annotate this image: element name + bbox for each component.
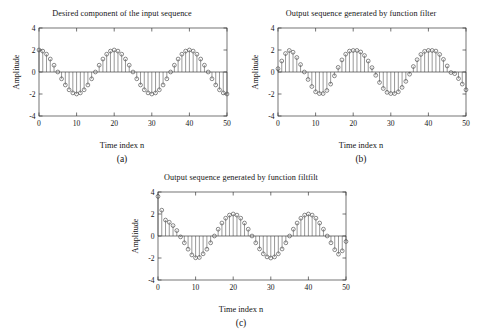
panel-c-caption: (c) — [127, 317, 355, 329]
y-axis-title: Amplitude — [12, 54, 21, 89]
y-tick-label: -4 — [268, 112, 275, 121]
x-tick-label: 0 — [37, 119, 41, 128]
x-tick-label: 10 — [312, 119, 320, 128]
y-tick-label: 0 — [32, 68, 36, 77]
y-tick-label: -4 — [148, 276, 155, 285]
panel-c-xlabel: Time index n — [127, 305, 355, 315]
x-tick-label: 10 — [73, 119, 81, 128]
y-axis-title: Amplitude — [131, 218, 140, 253]
figure-container: Desired component of the input sequence … — [0, 0, 483, 334]
y-tick-label: 4 — [32, 24, 36, 33]
panel-c: Output sequence generated by function fi… — [127, 172, 355, 322]
panel-b-plot: 01020304050420-2-4Amplitude — [247, 19, 475, 135]
panel-a-plot: 01020304050420-2-4Amplitude — [8, 19, 236, 135]
panel-b-xlabel: Time index n — [247, 141, 475, 151]
x-tick-label: 0 — [156, 283, 160, 292]
x-tick-label: 40 — [186, 119, 194, 128]
panel-a-xlabel: Time index n — [8, 141, 236, 151]
data-point-marker — [179, 235, 183, 239]
y-axis-title: Amplitude — [251, 54, 260, 89]
panel-b-caption: (b) — [247, 153, 475, 165]
x-tick-label: 10 — [192, 283, 200, 292]
x-tick-label: 0 — [276, 119, 280, 128]
y-tick-label: -2 — [29, 90, 36, 99]
y-tick-label: 0 — [151, 232, 155, 241]
stem-series — [156, 195, 348, 260]
x-tick-label: 20 — [110, 119, 118, 128]
x-tick-label: 30 — [267, 283, 275, 292]
y-tick-label: 2 — [32, 46, 36, 55]
x-tick-label: 40 — [425, 119, 433, 128]
y-tick-label: 4 — [151, 188, 155, 197]
panel-a-title: Desired component of the input sequence — [8, 8, 236, 19]
x-tick-label: 50 — [342, 283, 350, 292]
panel-b: Output sequence generated by function fi… — [247, 8, 475, 158]
y-tick-label: 0 — [271, 68, 275, 77]
x-tick-label: 30 — [387, 119, 395, 128]
y-tick-label: 2 — [271, 46, 275, 55]
x-tick-label: 20 — [349, 119, 357, 128]
x-tick-label: 30 — [148, 119, 156, 128]
panel-b-title: Output sequence generated by function fi… — [247, 8, 475, 19]
panel-c-plot: 01020304050420-2-4Amplitude — [127, 183, 355, 299]
y-tick-label: -4 — [29, 112, 36, 121]
y-tick-label: 2 — [151, 210, 155, 219]
x-tick-label: 50 — [462, 119, 470, 128]
x-tick-label: 50 — [223, 119, 231, 128]
panel-a-caption: (a) — [8, 153, 236, 165]
panel-a: Desired component of the input sequence … — [8, 8, 236, 158]
x-tick-label: 40 — [305, 283, 313, 292]
x-tick-label: 20 — [229, 283, 237, 292]
y-tick-label: 4 — [271, 24, 275, 33]
panel-c-title: Output sequence generated by function fi… — [127, 172, 355, 183]
y-tick-label: -2 — [268, 90, 275, 99]
y-tick-label: -2 — [148, 254, 155, 263]
